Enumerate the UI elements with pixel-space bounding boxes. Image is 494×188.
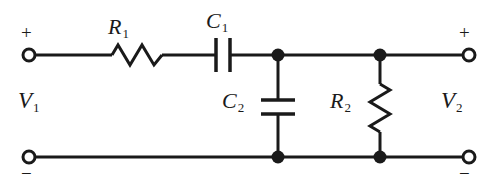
- resistor-r1-symbol: [112, 45, 162, 65]
- resistor-r2-label: R2: [330, 90, 350, 112]
- input-voltage-label: V1: [18, 89, 39, 112]
- input-positive-sign: +: [21, 23, 32, 42]
- output-voltage-label-subscript: 2: [456, 100, 463, 115]
- terminal-input-positive: [23, 49, 35, 61]
- junction-dot-node-d: [374, 151, 387, 164]
- resistor-r1-label-text: R: [108, 14, 121, 39]
- input-voltage-label-text: V: [18, 88, 32, 113]
- capacitor-c2-label: C2: [222, 90, 243, 112]
- resistor-r2-label-subscript: 2: [344, 100, 351, 115]
- capacitor-c1-label-text: C: [206, 8, 221, 33]
- junction-dot-node-c: [272, 151, 285, 164]
- resistor-r1-label-subscript: 1: [122, 26, 129, 41]
- resistor-r1-label: R1: [108, 16, 128, 38]
- input-negative-sign: −: [21, 164, 32, 183]
- terminal-output-positive: [463, 49, 475, 61]
- output-negative-sign: −: [459, 164, 470, 183]
- output-voltage-label: V2: [441, 89, 462, 112]
- terminal-output-negative: [463, 151, 475, 163]
- junction-dot-node-a: [272, 49, 285, 62]
- output-voltage-label-text: V: [441, 88, 455, 113]
- junction-dot-node-b: [374, 49, 387, 62]
- capacitor-c2-label-text: C: [222, 88, 237, 113]
- terminal-input-negative: [23, 151, 35, 163]
- resistor-r2-symbol: [370, 84, 390, 132]
- resistor-r2-label-text: R: [330, 88, 343, 113]
- capacitor-c1-label-subscript: 1: [222, 20, 229, 35]
- input-voltage-label-subscript: 1: [33, 100, 40, 115]
- output-positive-sign: +: [459, 23, 470, 42]
- circuit-diagram: R1 C1 C2 R2 V1 V2 + − + −: [0, 0, 494, 188]
- circuit-schematic-svg: [0, 0, 494, 188]
- capacitor-c1-label: C1: [206, 10, 227, 32]
- capacitor-c2-label-subscript: 2: [238, 100, 245, 115]
